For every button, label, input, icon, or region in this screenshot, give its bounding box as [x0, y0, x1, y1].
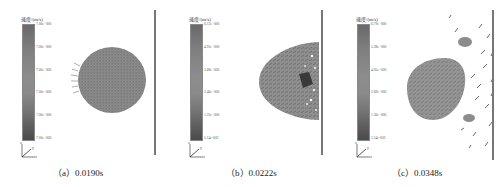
legend-title: 速度/(m/s) — [356, 15, 378, 22]
legend-tick: 7.00e+000 — [36, 22, 51, 26]
wall — [492, 10, 494, 160]
svg-text:x: x — [203, 154, 205, 159]
legend-tick: 4.05e+000 — [371, 68, 386, 72]
legend-tick: 5.14e-002 — [204, 136, 218, 140]
legend-tick: 1.54e-002 — [371, 136, 385, 140]
panel-b: 速度/(m/s) 6.12e+000 4.91e+000 3.68e+000 2… — [170, 0, 330, 187]
color-bar — [357, 24, 370, 141]
caption-a: （a）0.0190s — [53, 166, 103, 179]
legend-tick: 7.00e+000 — [36, 136, 51, 140]
color-bar — [190, 24, 203, 141]
svg-text:z: z — [20, 140, 22, 145]
droplet-sphere — [70, 46, 150, 116]
legend-title: 速度/(m/s) — [21, 15, 43, 22]
legend-tick: 1.25e+000 — [204, 113, 219, 117]
legend-tick: 7.00e+000 — [36, 45, 51, 49]
droplet-impact — [257, 38, 325, 124]
legend-title: 速度/(m/s) — [189, 15, 211, 22]
svg-text:z: z — [355, 140, 357, 145]
svg-text:x: x — [370, 154, 372, 159]
legend-tick: 5.38e+000 — [371, 45, 386, 49]
axes-triad-icon: z y x — [188, 141, 206, 159]
axes-triad-icon: z y x — [355, 141, 373, 159]
panel-c: 速度/(m/s) 6.79e+000 5.38e+000 4.05e+000 2… — [335, 0, 500, 187]
caption-c: （c）0.0348s — [392, 166, 442, 179]
wall — [321, 10, 323, 155]
legend-tick: 7.00e+000 — [36, 113, 51, 117]
legend-tick: 2.46e+000 — [204, 90, 219, 94]
svg-text:z: z — [188, 140, 190, 145]
legend-tick: 2.69e+000 — [371, 90, 386, 94]
legend-tick: 1.36e+000 — [371, 113, 386, 117]
caption-b: （b）0.0222s — [226, 166, 277, 179]
panel-a: 速度/(m/s) 7.00e+000 7.00e+000 7.00e+000 7… — [0, 0, 165, 187]
legend-tick: 3.68e+000 — [204, 68, 219, 72]
legend-tick: 7.00e+000 — [36, 90, 51, 94]
svg-text:y: y — [200, 145, 202, 150]
legend-tick: 4.91e+000 — [204, 45, 219, 49]
legend-tick: 6.79e+000 — [371, 22, 386, 26]
svg-text:x: x — [35, 154, 37, 159]
legend-tick: 7.00e+000 — [36, 68, 51, 72]
legend-tick: 6.12e+000 — [204, 22, 219, 26]
droplet-splash — [405, 8, 495, 158]
svg-text:y: y — [367, 145, 369, 150]
wall — [154, 10, 156, 155]
svg-text:y: y — [32, 145, 34, 150]
color-bar — [22, 24, 35, 141]
axes-triad-icon: z y x — [20, 141, 38, 159]
